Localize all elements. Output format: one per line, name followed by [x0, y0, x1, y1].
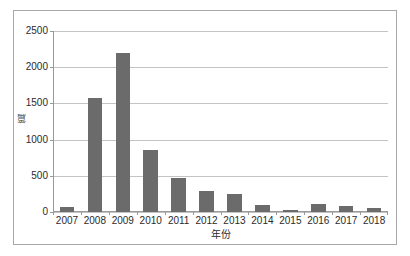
x-axis-tick-mark [221, 212, 222, 215]
bar-slot [137, 31, 165, 212]
bar-slot [81, 31, 109, 212]
bar-slot [304, 31, 332, 212]
bar-slot [193, 31, 221, 212]
x-axis-tick-label: 2011 [165, 216, 193, 226]
bar[interactable] [88, 98, 103, 212]
x-axis-tick-label: 2013 [221, 216, 249, 226]
x-axis-tick-label: 2014 [248, 216, 276, 226]
bar-slot [276, 31, 304, 212]
y-axis-tick-label: 0 [42, 207, 48, 217]
bar[interactable] [255, 205, 270, 212]
x-axis-tick-label: 2015 [276, 216, 304, 226]
x-axis-tick-mark [332, 212, 333, 215]
y-axis-tick-label: 500 [31, 171, 48, 181]
x-axis-tick-mark [53, 212, 54, 215]
bar[interactable] [116, 53, 131, 212]
y-axis-tick-label: 1500 [26, 98, 48, 108]
y-axis-tick-label: 1000 [26, 135, 48, 145]
bar[interactable] [60, 207, 75, 212]
bar[interactable] [339, 206, 354, 212]
bar[interactable] [311, 204, 326, 212]
x-axis-tick-label: 2008 [81, 216, 109, 226]
bar-slot [165, 31, 193, 212]
x-axis-tick-label: 2007 [53, 216, 81, 226]
bar[interactable] [171, 178, 186, 212]
bar-slot [109, 31, 137, 212]
x-axis-tick-mark [360, 212, 361, 215]
x-axis-tick-mark [109, 212, 110, 215]
x-axis-tick-labels: 2007200820092010201120122013201420152016… [53, 216, 388, 226]
y-axis-tick-label: 2000 [26, 62, 48, 72]
x-axis-tick-end [387, 212, 388, 215]
plot-area: 05001000150020002500 [53, 31, 388, 212]
x-axis-tick-label: 2009 [109, 216, 137, 226]
bar[interactable] [199, 191, 214, 212]
x-axis-tick-mark [248, 212, 249, 215]
y-axis-tick-label: 2500 [26, 26, 48, 36]
bars-group [53, 31, 388, 212]
y-axis-title: 篇 [17, 114, 26, 123]
x-axis-tick-mark [137, 212, 138, 215]
x-axis-title: 年份 [53, 230, 388, 240]
x-axis-tick-mark [193, 212, 194, 215]
x-axis-tick-mark [81, 212, 82, 215]
x-axis-tick-label: 2017 [332, 216, 360, 226]
x-axis-tick-label: 2016 [304, 216, 332, 226]
bar[interactable] [227, 194, 242, 212]
x-axis-tick-label: 2018 [360, 216, 388, 226]
bar-slot [332, 31, 360, 212]
chart-figure: 篇 05001000150020002500 20072008200920102… [13, 10, 397, 245]
bar-slot [248, 31, 276, 212]
x-axis-tick-mark [165, 212, 166, 215]
bar[interactable] [143, 150, 158, 212]
bar-slot [53, 31, 81, 212]
x-axis-tick-label: 2012 [193, 216, 221, 226]
bar[interactable] [283, 210, 298, 212]
bar[interactable] [367, 208, 382, 212]
x-axis-tick-mark [304, 212, 305, 215]
x-axis-tick-label: 2010 [137, 216, 165, 226]
bar-slot [360, 31, 388, 212]
x-axis-tick-mark [276, 212, 277, 215]
bar-slot [221, 31, 249, 212]
